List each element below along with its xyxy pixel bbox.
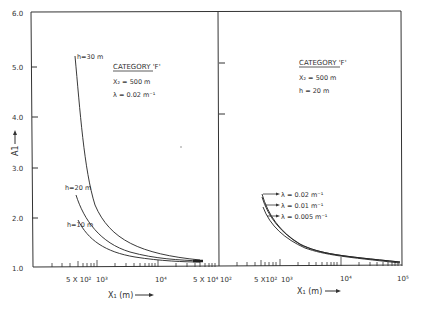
left-curves: [75, 56, 203, 262]
ytick-4: 4.0: [12, 114, 23, 122]
left-annotations: h=30 m h=20 m h=10 m CATEGORY 'F' X₂ = 5…: [65, 53, 161, 229]
right-category-title: CATEGORY 'F': [299, 59, 347, 67]
xtick-1e4-left: 10⁴: [155, 276, 167, 284]
chart-figure: 6.0 5.0 4.0 3.0 2.0 1.0 A1: [0, 0, 421, 315]
label-h30: h=30 m: [77, 53, 103, 61]
xtick-1e5-right: 10⁵: [397, 275, 409, 283]
right-x2-note: X₂ = 500 m: [299, 74, 336, 82]
label-lambda-001-text: λ = 0.01 m⁻¹: [281, 202, 324, 210]
label-h10: h=10 m: [67, 221, 93, 229]
x-axis-label-right: X₁ (m): [297, 287, 322, 296]
ytick-5: 5.0: [12, 64, 23, 72]
x-axis-labels-right: 10² 5 X10² 10³ 10⁴ 10⁵ X₁ (m): [220, 275, 409, 296]
xtick-1e2-right: 10²: [220, 276, 232, 284]
y-axis-title: A1: [11, 130, 20, 156]
left-category-title: CATEGORY 'F': [113, 63, 161, 71]
curve-h30: [75, 56, 200, 260]
ytick-3: 3.0: [12, 165, 23, 173]
ytick-2: 2.0: [12, 215, 23, 223]
curve-h10: [78, 220, 200, 262]
xtick-1e4-right: 10⁴: [340, 275, 352, 283]
y-axis-ticks: [31, 63, 225, 218]
y-axis-labels: 6.0 5.0 4.0 3.0 2.0 1.0: [12, 10, 23, 273]
x-axis-ticks-right: [237, 257, 398, 266]
xtick-1e3-left: 10³: [96, 276, 108, 284]
ytick-1: 1.0: [12, 265, 23, 273]
label-h20: h=20 m: [65, 184, 91, 192]
ytick-6: 6.0: [12, 10, 23, 18]
y-axis-label: A1: [11, 145, 20, 156]
xtick-5e2-right: 5 X10²: [254, 276, 277, 284]
label-lambda-002: λ = 0.02 m⁻¹: [281, 191, 324, 199]
xtick-5e4-left: 5 X 10⁴: [193, 276, 219, 284]
x-axis-label-left: X₁ (m): [108, 291, 133, 300]
speck: [180, 146, 182, 148]
right-h-note: h = 20 m: [299, 87, 329, 95]
label-lambda-0005: λ = 0.005 m⁻¹: [281, 213, 328, 221]
right-annotations: λ = 0.02 m⁻¹ λ = 0.01 m⁻¹ λ = 0.005 m⁻¹ …: [263, 59, 347, 221]
xtick-1e3-right: 10³: [281, 276, 293, 284]
left-lambda-note: λ = 0.02 m⁻¹: [113, 91, 156, 99]
left-x2-note: X₂ = 500 m: [113, 78, 150, 86]
x-axis-labels-left: 5 X 10² 10³ 10⁴ 5 X 10⁴ X₁ (m): [66, 276, 219, 300]
xtick-5e2-left: 5 X 10²: [66, 276, 92, 284]
